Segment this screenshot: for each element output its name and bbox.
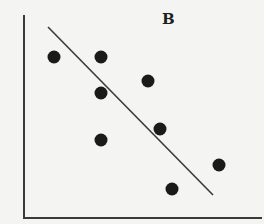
- chart-plot-area: [0, 0, 264, 224]
- panel-label: B: [162, 12, 175, 27]
- chart-axes: [23, 15, 262, 218]
- scatter-chart: B: [0, 0, 264, 224]
- data-point: [166, 183, 179, 196]
- data-point: [154, 123, 167, 136]
- data-point: [95, 51, 108, 64]
- data-point: [142, 75, 155, 88]
- regression-line: [48, 27, 213, 195]
- data-point: [213, 159, 226, 172]
- trend-line: [48, 27, 213, 195]
- data-point: [95, 134, 108, 147]
- data-point: [48, 51, 61, 64]
- data-point: [95, 87, 108, 100]
- data-points: [48, 51, 226, 196]
